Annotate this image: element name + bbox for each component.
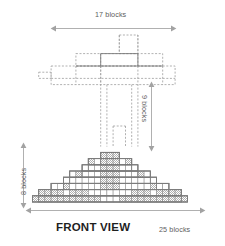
block-cell [119, 183, 125, 189]
block-cell [175, 190, 181, 196]
upper-solid-edges [76, 54, 163, 66]
block-cell [82, 190, 88, 196]
block-cell [33, 196, 39, 202]
block-cell [88, 171, 94, 177]
block-cell [138, 196, 144, 202]
block-cell [82, 171, 88, 177]
block-cell [70, 171, 76, 177]
block-cell [119, 159, 125, 165]
dimension-label-top: 17 blocks [95, 10, 126, 19]
block-cell [144, 171, 150, 177]
block-cell [70, 183, 76, 189]
block-cell [113, 165, 119, 171]
block-cell [126, 165, 132, 171]
block-cell [113, 159, 119, 165]
block-cell [70, 190, 76, 196]
block-cell [82, 177, 88, 183]
block-cell [82, 183, 88, 189]
block-cell [126, 196, 132, 202]
block-cell [76, 190, 82, 196]
block-cell [39, 196, 45, 202]
block-cell [113, 177, 119, 183]
dashed-bar-top-stub [119, 35, 138, 54]
block-cell [95, 190, 101, 196]
block-cell [70, 196, 76, 202]
block-cell [95, 183, 101, 189]
block-cell [101, 190, 107, 196]
block-cell [157, 190, 163, 196]
block-cell [88, 196, 94, 202]
block-cell [107, 177, 113, 183]
block-cell [144, 183, 150, 189]
block-cell [107, 196, 113, 202]
block-cell [64, 196, 70, 202]
block-cell [51, 190, 57, 196]
block-cell [181, 196, 187, 202]
block-cell [57, 183, 63, 189]
block-cell [95, 196, 101, 202]
block-cell [64, 183, 70, 189]
dimension-label-left: 8 blocks [19, 168, 28, 195]
block-cell [76, 183, 82, 189]
block-cell [107, 159, 113, 165]
block-cell [157, 196, 163, 202]
block-cell [113, 152, 119, 158]
block-cell [45, 196, 51, 202]
block-cell [45, 190, 51, 196]
block-cell [107, 152, 113, 158]
block-cell [64, 190, 70, 196]
dashed-bar-mid [76, 54, 163, 66]
dimension-label-right: 9 blocks [140, 95, 149, 122]
block-cell [101, 171, 107, 177]
block-cell [107, 190, 113, 196]
block-cell [163, 190, 169, 196]
dimension-label-bottom: 25 blocks [159, 225, 190, 234]
block-cell [138, 183, 144, 189]
block-cell [113, 171, 119, 177]
block-cell [113, 190, 119, 196]
view-title: FRONT VIEW [56, 221, 130, 233]
block-cell [138, 177, 144, 183]
block-cell [70, 177, 76, 183]
block-cell [132, 177, 138, 183]
block-cell [132, 171, 138, 177]
block-cell [169, 190, 175, 196]
drawing-canvas: 17 blocks 25 blocks 9 blocks 8 blocks FR… [0, 0, 225, 246]
block-cell [107, 165, 113, 171]
block-cell [57, 190, 63, 196]
block-cell [119, 177, 125, 183]
block-cell [95, 165, 101, 171]
block-cell [150, 177, 156, 183]
block-cell [76, 196, 82, 202]
block-cell [138, 171, 144, 177]
dashed-bar-wide [51, 66, 175, 85]
block-cell [126, 183, 132, 189]
block-cell [163, 183, 169, 189]
block-cell [144, 196, 150, 202]
block-cell [88, 183, 94, 189]
block-cell [119, 165, 125, 171]
block-cell [157, 183, 163, 189]
block-cell [39, 190, 45, 196]
block-cell [113, 196, 119, 202]
block-cell [132, 165, 138, 171]
block-cell [82, 196, 88, 202]
block-cell [113, 183, 119, 189]
block-cell [107, 171, 113, 177]
block-cell [101, 152, 107, 158]
block-cell [119, 171, 125, 177]
dashed-bar-left-tail [39, 72, 51, 78]
block-cell [88, 190, 94, 196]
block-cell [82, 165, 88, 171]
block-pyramid [33, 152, 188, 202]
block-cell [144, 177, 150, 183]
block-cell [138, 190, 144, 196]
front-view-drawing [0, 0, 225, 246]
block-cell [107, 183, 113, 189]
block-cell [101, 196, 107, 202]
block-cell [57, 196, 63, 202]
block-cell [64, 177, 70, 183]
block-cell [132, 196, 138, 202]
block-cell [76, 177, 82, 183]
block-cell [119, 190, 125, 196]
